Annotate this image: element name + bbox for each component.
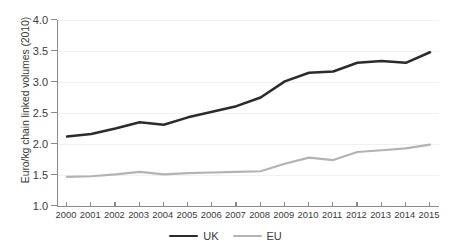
x-axis-tick-mark [187, 202, 188, 206]
x-axis-tick-mark [66, 202, 67, 206]
y-axis-tick: 2.0 [0, 137, 57, 151]
x-axis-tick-label: 2015 [412, 207, 446, 223]
y-axis-tick-label: 3.5 [33, 44, 48, 58]
legend-label-uk: UK [203, 230, 218, 243]
legend-item-eu[interactable]: EU [233, 230, 282, 243]
y-axis-tick: 3.0 [0, 75, 57, 89]
x-axis-tick-group: 2000200120022003200420052006200720082009… [57, 207, 438, 227]
x-axis-tick-mark [308, 202, 309, 206]
x-axis-tick-mark [90, 202, 91, 206]
y-axis-tick-label: 1.5 [33, 168, 48, 182]
x-axis-tick-mark [405, 202, 406, 206]
line-chart-figure: Euro/kg chain linked volumes (2010) 1.01… [0, 0, 451, 247]
y-axis-tick: 1.5 [0, 168, 57, 182]
x-axis-tick-mark [139, 202, 140, 206]
x-axis-tick-mark [260, 202, 261, 206]
series-line-uk [67, 52, 430, 136]
series-svg [58, 20, 439, 206]
y-axis-tick: 2.5 [0, 106, 57, 120]
x-axis-tick-mark [211, 202, 212, 206]
x-axis-tick-mark [235, 202, 236, 206]
x-axis-tick-mark [284, 202, 285, 206]
x-axis-tick-mark [356, 202, 357, 206]
y-axis-tick-label: 1.0 [33, 199, 48, 213]
y-axis-tick-label: 3.0 [33, 75, 48, 89]
x-axis-tick-mark [163, 202, 164, 206]
legend-swatch-uk [169, 235, 198, 238]
y-axis-tick-label: 2.5 [33, 106, 48, 120]
x-axis-tick-mark [114, 202, 115, 206]
chart-legend: UKEU [0, 226, 451, 246]
series-line-eu [67, 145, 430, 177]
x-axis-tick-mark [381, 202, 382, 206]
y-axis-tick: 4.0 [0, 13, 57, 27]
legend-item-uk[interactable]: UK [169, 230, 218, 243]
x-axis-tick-mark [332, 202, 333, 206]
legend-label-eu: EU [267, 230, 282, 243]
x-axis-tick-mark [429, 202, 430, 206]
y-axis-tick: 3.5 [0, 44, 57, 58]
series-layer [58, 20, 439, 206]
legend-swatch-eu [233, 235, 262, 238]
y-axis-tick-label: 2.0 [33, 137, 48, 151]
plot-area [57, 20, 439, 207]
y-axis-tick-label: 4.0 [33, 13, 48, 27]
